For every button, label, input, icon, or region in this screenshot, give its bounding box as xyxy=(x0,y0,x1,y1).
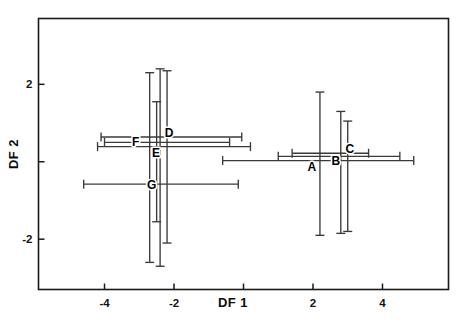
x-axis-title: DF 1 xyxy=(218,295,248,310)
x-tick-label: -2 xyxy=(169,297,179,309)
point-label-e: E xyxy=(152,146,160,160)
y-tick-label: 2 xyxy=(26,78,32,90)
y-tick-label: -2 xyxy=(22,233,32,245)
chart-figure: -4-224 2-2 AABBCCDDEEFFGG DF 1 DF 2 xyxy=(0,0,466,321)
point-label-a: A xyxy=(308,160,317,174)
point-label-c: C xyxy=(345,142,354,156)
x-tick-label: 4 xyxy=(379,297,386,309)
point-label-b: B xyxy=(331,154,340,168)
point-label-d: D xyxy=(165,126,174,140)
y-axis-title: DF 2 xyxy=(6,139,21,169)
point-label-f: F xyxy=(132,135,139,149)
x-tick-label: -4 xyxy=(99,297,110,309)
point-label-g: G xyxy=(147,178,156,192)
error-bar-scatter-plot: -4-224 2-2 AABBCCDDEEFFGG DF 1 DF 2 xyxy=(0,0,466,321)
x-tick-label: 2 xyxy=(310,297,316,309)
